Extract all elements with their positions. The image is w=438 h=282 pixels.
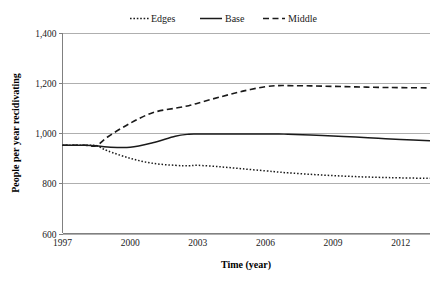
series-layer xyxy=(63,86,431,179)
recidivism-line-chart: Edges Base Middle 6008001,0001,2001,400 … xyxy=(0,0,438,282)
legend-item-base[interactable]: Base xyxy=(200,13,245,24)
y-tick-label: 1,400 xyxy=(35,29,57,39)
legend-label-middle: Middle xyxy=(288,13,317,24)
x-axis-ticks: 199720002003200620092012 xyxy=(53,238,410,248)
series-line-middle xyxy=(63,86,431,147)
y-tick-label: 1,200 xyxy=(35,79,57,89)
legend-item-edges[interactable]: Edges xyxy=(130,13,176,24)
legend-label-base: Base xyxy=(225,13,245,24)
x-tick-label: 2000 xyxy=(121,238,140,248)
legend-item-middle[interactable]: Middle xyxy=(263,13,317,24)
x-tick-label: 2006 xyxy=(256,238,275,248)
legend-label-edges: Edges xyxy=(151,13,176,24)
x-tick-label: 2003 xyxy=(188,238,207,248)
y-tick-label: 800 xyxy=(42,179,57,189)
series-line-edges xyxy=(63,145,431,178)
series-line-base xyxy=(63,134,431,148)
y-axis-title: People per year recidivating xyxy=(10,73,21,193)
x-axis-title: Time (year) xyxy=(221,259,271,271)
x-tick-label: 1997 xyxy=(53,238,72,248)
chart-canvas: Edges Base Middle 6008001,0001,2001,400 … xyxy=(0,0,438,282)
x-tick-label: 2009 xyxy=(324,238,343,248)
y-tick-label: 1,000 xyxy=(35,129,57,139)
x-tick-label: 2012 xyxy=(391,238,410,248)
chart-legend: Edges Base Middle xyxy=(130,13,317,24)
y-axis-ticks: 6008001,0001,2001,400 xyxy=(35,29,62,240)
